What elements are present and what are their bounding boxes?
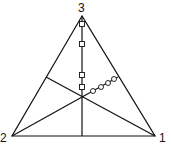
ternary-diagram: 3 2 1	[0, 0, 171, 156]
circle-marker	[91, 89, 96, 94]
square-marker	[80, 42, 85, 47]
vertex-label-1: 1	[159, 131, 166, 145]
vertex-label-3: 3	[78, 1, 85, 15]
circle-marker	[106, 81, 111, 86]
square-marker	[80, 22, 85, 27]
square-marker	[80, 73, 85, 78]
vertex-label-2: 2	[0, 131, 7, 145]
circle-marker	[112, 77, 117, 82]
square-marker	[80, 85, 85, 90]
circle-marker	[99, 85, 104, 90]
